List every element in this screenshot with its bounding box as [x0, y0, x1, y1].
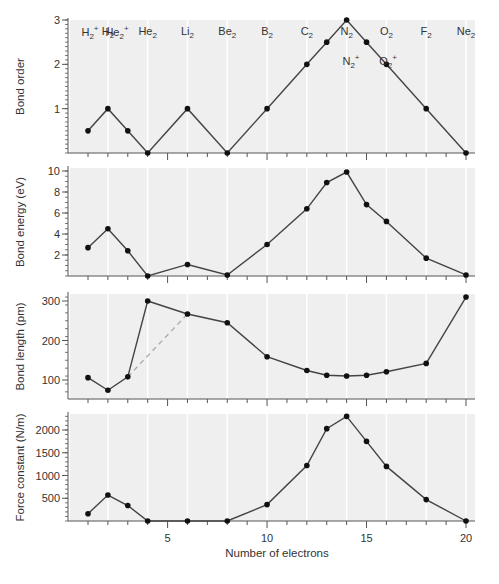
data-point — [85, 245, 91, 251]
data-point — [463, 150, 469, 156]
data-point — [364, 202, 370, 208]
data-point — [145, 150, 151, 156]
y-tick-label: 1 — [54, 103, 60, 115]
x-tick-label: 20 — [460, 532, 472, 544]
y-axis-title: Bond length (pm) — [14, 302, 26, 390]
data-point — [384, 369, 390, 375]
panel-4: 500100015002000Force constant (N/m)51015… — [14, 412, 475, 559]
data-point — [105, 106, 111, 112]
y-tick-label: 10 — [48, 165, 60, 177]
panel-1: 123Bond orderH2He2Li2Be2B2C2N2O2F2Ne2H2+… — [14, 14, 476, 160]
data-point — [85, 128, 91, 134]
plot-background — [70, 414, 475, 521]
y-tick-label: 4 — [54, 228, 60, 240]
data-point — [85, 511, 91, 517]
data-point — [185, 311, 191, 317]
data-point — [384, 219, 390, 225]
data-point — [85, 375, 91, 381]
data-point — [463, 294, 469, 300]
data-point — [324, 426, 330, 432]
x-tick-label: 10 — [261, 532, 273, 544]
panel-2: 246810Bond energy (eV) — [14, 165, 475, 283]
data-point — [384, 464, 390, 470]
y-tick-label: 200 — [42, 335, 60, 347]
panel-3: 100200300Bond length (pm) — [14, 292, 475, 406]
data-point — [185, 262, 191, 268]
data-point — [224, 272, 230, 278]
y-tick-label: 2000 — [36, 424, 60, 436]
y-tick-label: 500 — [42, 492, 60, 504]
data-point — [304, 62, 310, 68]
data-point — [364, 439, 370, 445]
plot-background — [70, 294, 475, 399]
y-axis-title: Force constant (N/m) — [14, 413, 26, 521]
data-point — [264, 242, 270, 248]
data-point — [304, 368, 310, 374]
data-point — [224, 518, 230, 524]
y-tick-label: 300 — [42, 295, 60, 307]
plot-background — [70, 168, 475, 276]
y-tick-label: 1500 — [36, 447, 60, 459]
x-tick-label: 15 — [360, 532, 372, 544]
data-point — [304, 463, 310, 469]
molecular-orbital-property-charts: 123Bond orderH2He2Li2Be2B2C2N2O2F2Ne2H2+… — [0, 0, 499, 584]
data-point — [423, 255, 429, 261]
data-point — [324, 372, 330, 378]
data-point — [324, 180, 330, 186]
y-tick-label: 100 — [42, 374, 60, 386]
data-point — [423, 361, 429, 367]
data-point — [105, 226, 111, 232]
y-tick-label: 6 — [54, 207, 60, 219]
y-tick-label: 8 — [54, 186, 60, 198]
y-tick-label: 1000 — [36, 470, 60, 482]
data-point — [185, 106, 191, 112]
data-point — [125, 374, 131, 380]
x-axis-title: Number of electrons — [225, 547, 329, 559]
data-point — [324, 39, 330, 45]
data-point — [423, 106, 429, 112]
data-point — [224, 320, 230, 326]
data-point — [145, 273, 151, 279]
data-point — [264, 106, 270, 112]
y-tick-label: 3 — [54, 14, 60, 26]
data-point — [264, 354, 270, 360]
data-point — [463, 272, 469, 278]
data-point — [105, 492, 111, 498]
data-point — [185, 518, 191, 524]
data-point — [463, 518, 469, 524]
data-point — [344, 169, 350, 175]
y-axis-title: Bond order — [14, 58, 26, 115]
y-axis-title: Bond energy (eV) — [14, 177, 26, 267]
data-point — [364, 39, 370, 45]
x-tick-label: 5 — [165, 532, 171, 544]
data-point — [264, 502, 270, 508]
y-tick-label: 2 — [54, 58, 60, 70]
data-point — [145, 518, 151, 524]
data-point — [125, 128, 131, 134]
data-point — [344, 414, 350, 420]
data-point — [364, 372, 370, 378]
data-point — [224, 150, 230, 156]
data-point — [125, 503, 131, 509]
data-point — [344, 373, 350, 379]
data-point — [125, 248, 131, 254]
data-point — [105, 387, 111, 393]
data-point — [344, 17, 350, 23]
data-point — [423, 497, 429, 503]
data-point — [304, 206, 310, 212]
data-point — [145, 298, 151, 304]
y-tick-label: 2 — [54, 249, 60, 261]
